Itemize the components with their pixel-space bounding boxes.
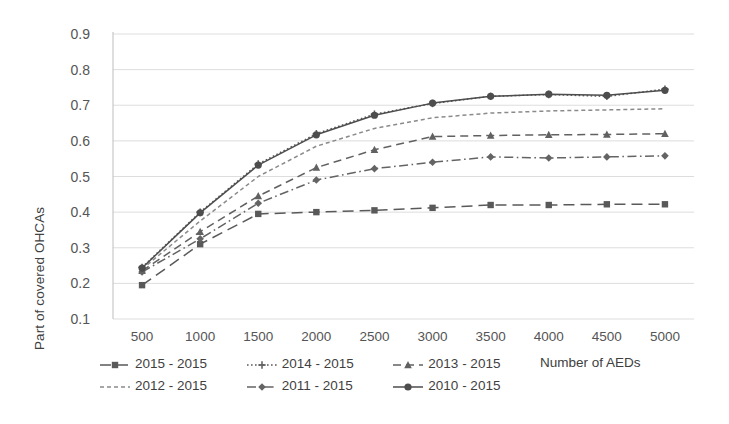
data-point-marker	[487, 153, 495, 161]
data-point-marker	[487, 202, 493, 208]
series-2010_2015	[138, 87, 668, 272]
data-point-marker	[545, 91, 552, 98]
data-point-marker	[662, 201, 668, 207]
series-line	[142, 109, 665, 269]
data-point-marker	[371, 165, 379, 173]
data-point-marker	[546, 202, 552, 208]
legend-key-circle-icon	[393, 381, 423, 393]
data-point-marker	[661, 152, 669, 160]
data-point-marker	[138, 264, 145, 271]
legend-label: 2011 - 2015	[282, 378, 353, 393]
data-point-marker	[405, 383, 412, 390]
series-2015_2015	[139, 201, 668, 288]
series-2011_2015	[138, 152, 669, 276]
legend-key-square-icon	[100, 359, 130, 371]
data-point-marker	[371, 207, 377, 213]
legend-item-2012-2015[interactable]: 2012 - 2015	[100, 374, 247, 396]
legend-label: 2012 - 2015	[135, 378, 207, 393]
legend-row-2: 2012 - 20152011 - 20152010 - 2015	[100, 374, 540, 396]
data-point-marker	[255, 211, 261, 217]
legend-key	[393, 379, 423, 391]
legend-key-plus-icon	[247, 359, 277, 371]
legend-item-2010-2015[interactable]: 2010 - 2015	[393, 374, 540, 396]
data-point-marker	[196, 228, 204, 235]
data-point-marker	[371, 112, 378, 119]
legend-label: 2015 - 2015	[135, 356, 207, 371]
data-point-marker	[603, 92, 610, 99]
legend-label: 2010 - 2015	[428, 378, 500, 393]
legend-key	[247, 379, 277, 391]
legend-key-diamond-icon	[247, 381, 277, 393]
legend-row-1: 2015 - 20152014 - 20152013 - 2015	[100, 352, 540, 374]
data-point-marker	[545, 154, 553, 162]
series-line	[142, 90, 665, 268]
legend-item-2014-2015[interactable]: 2014 - 2015	[247, 352, 394, 374]
legend-label: 2013 - 2015	[428, 356, 500, 371]
series-line	[142, 134, 665, 271]
data-point-marker	[197, 209, 204, 216]
series-line	[142, 156, 665, 272]
data-point-marker	[255, 162, 262, 169]
data-point-marker	[429, 205, 435, 211]
data-point-marker	[603, 153, 611, 161]
legend-key	[393, 357, 423, 369]
legend-label: 2014 - 2015	[282, 356, 354, 371]
data-point-marker	[429, 100, 436, 107]
series-line	[142, 89, 665, 267]
legend-key-none-icon	[100, 381, 130, 393]
data-point-marker	[258, 361, 265, 368]
x-axis-title: Number of AEDs	[540, 355, 720, 370]
data-point-marker	[487, 93, 494, 100]
series-2012_2015	[142, 109, 665, 269]
data-point-marker	[254, 199, 262, 207]
data-point-marker	[313, 176, 321, 184]
chart-legend: 2015 - 20152014 - 20152013 - 2015 2012 -…	[100, 352, 540, 396]
data-point-marker	[604, 201, 610, 207]
data-point-marker	[139, 282, 145, 288]
series-line	[142, 204, 665, 285]
data-point-marker	[254, 192, 262, 199]
legend-item-2011-2015[interactable]: 2011 - 2015	[247, 374, 394, 396]
legend-key	[247, 357, 277, 369]
data-point-marker	[258, 383, 266, 391]
data-point-marker	[429, 158, 437, 166]
legend-key-triangle-icon	[393, 359, 423, 371]
series-2013_2015	[138, 130, 669, 274]
series-2014_2015	[138, 86, 668, 272]
legend-item-2013-2015[interactable]: 2013 - 2015	[393, 352, 540, 374]
data-point-marker	[313, 164, 321, 171]
data-point-marker	[313, 131, 320, 138]
data-point-marker	[661, 87, 668, 94]
data-point-marker	[313, 209, 319, 215]
legend-key	[100, 379, 130, 391]
data-point-marker	[112, 362, 118, 368]
chart-container: Part of covered OHCAs 0.90.80.70.60.50.4…	[0, 0, 729, 424]
gridlines	[113, 34, 694, 319]
legend-key	[100, 357, 130, 369]
legend-item-2015-2015[interactable]: 2015 - 2015	[100, 352, 247, 374]
